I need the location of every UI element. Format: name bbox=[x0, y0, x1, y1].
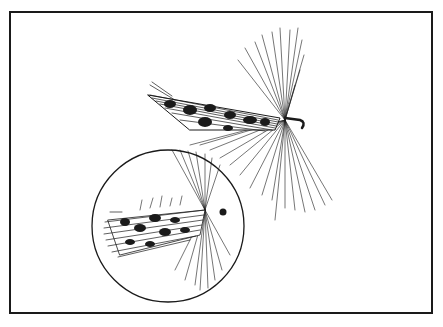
large-fly-wing bbox=[148, 82, 280, 131]
fishing-fly-illustration bbox=[0, 0, 443, 327]
small-fly-bead-head bbox=[220, 209, 227, 216]
